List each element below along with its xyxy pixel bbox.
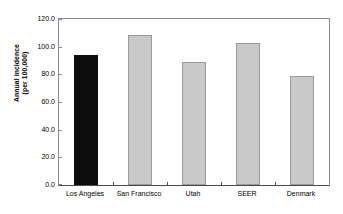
y-axis-tick-label: 20.0 xyxy=(26,153,55,160)
x-axis-tick-mark xyxy=(275,182,276,185)
y-axis-tick-label: 40.0 xyxy=(26,125,55,132)
x-axis-tick-label: SEER xyxy=(237,190,256,197)
bars-layer xyxy=(59,19,329,185)
y-axis-tick-mark xyxy=(59,19,62,20)
x-axis-tick-labels: Los AngelesSan FranciscoUtahSEERDenmark xyxy=(58,190,330,206)
bar-seer xyxy=(236,43,261,185)
x-axis-tick-mark xyxy=(167,182,168,185)
bar-denmark xyxy=(290,76,315,185)
y-axis-tick-labels: 0.020.040.060.080.0100.0120.0 xyxy=(26,14,55,190)
bar-los-angeles xyxy=(74,55,99,185)
bar-utah xyxy=(182,62,207,185)
y-axis-tick-mark xyxy=(59,74,62,75)
y-axis-tick-label: 80.0 xyxy=(26,70,55,77)
x-axis-tick-label: Denmark xyxy=(287,190,315,197)
y-axis-tick-mark xyxy=(59,47,62,48)
y-axis-tick-label: 100.0 xyxy=(26,42,55,49)
x-axis-tick-label: San Francisco xyxy=(117,190,162,197)
y-axis-title-line-1: Annual incidence xyxy=(13,44,21,102)
y-axis-tick-mark xyxy=(59,102,62,103)
x-axis-tick-label: Utah xyxy=(186,190,201,197)
y-axis-tick-mark xyxy=(59,130,62,131)
x-axis-tick-mark xyxy=(113,182,114,185)
plot-area xyxy=(58,18,330,186)
bar-chart: Annual incidence (per 100,000) 0.020.040… xyxy=(0,0,343,214)
y-axis-tick-label: 60.0 xyxy=(26,98,55,105)
y-axis-tick-mark xyxy=(59,184,62,185)
y-axis-tick-mark xyxy=(59,157,62,158)
x-axis-tick-mark xyxy=(221,182,222,185)
y-axis-tick-label: 0.0 xyxy=(26,181,55,188)
bar-san-francisco xyxy=(128,35,153,185)
y-axis-tick-label: 120.0 xyxy=(26,15,55,22)
x-axis-tick-label: Los Angeles xyxy=(66,190,104,197)
